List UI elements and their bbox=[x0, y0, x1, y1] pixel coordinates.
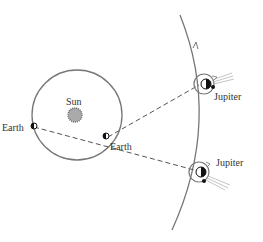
sun-icon bbox=[68, 108, 82, 122]
orbit-arrow-icon bbox=[193, 42, 198, 49]
jupiter-bottom-label: Jupiter bbox=[216, 158, 243, 168]
diagram-canvas: Sun Earth Earth Jupiter Jupiter bbox=[0, 0, 263, 242]
earth-right-icon bbox=[103, 133, 109, 139]
sun-label: Sun bbox=[66, 97, 82, 107]
earth-right-label: Earth bbox=[110, 142, 132, 152]
orbit-diagram bbox=[0, 0, 263, 242]
jupiter-orbit bbox=[172, 15, 199, 230]
jupiter-top-label: Jupiter bbox=[214, 92, 241, 102]
earth-left-label: Earth bbox=[2, 123, 24, 133]
earth-left-icon bbox=[31, 123, 37, 129]
